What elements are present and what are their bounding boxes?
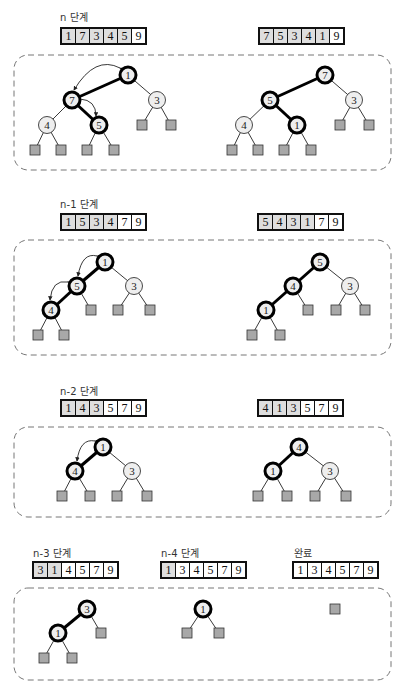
heap-node: 4 bbox=[43, 302, 59, 318]
svg-text:1: 1 bbox=[125, 69, 131, 81]
heap-node: 4 bbox=[39, 117, 56, 134]
svg-text:3: 3 bbox=[131, 280, 137, 292]
svg-text:4: 4 bbox=[48, 304, 54, 316]
heap-node: 3 bbox=[79, 601, 95, 617]
heap-node: 4 bbox=[291, 439, 307, 455]
heap-node: 5 bbox=[69, 278, 85, 294]
heap-node: 3 bbox=[149, 92, 166, 109]
svg-text:5: 5 bbox=[74, 280, 80, 292]
heap-node: 5 bbox=[262, 92, 278, 108]
svg-text:1: 1 bbox=[55, 627, 61, 639]
svg-text:1: 1 bbox=[100, 441, 106, 453]
svg-text:1: 1 bbox=[102, 256, 108, 268]
svg-text:4: 4 bbox=[296, 441, 302, 453]
heap-node: 3 bbox=[124, 463, 141, 480]
empty-leaf-nodes bbox=[30, 120, 374, 663]
svg-text:5: 5 bbox=[267, 94, 273, 106]
svg-text:3: 3 bbox=[84, 603, 90, 615]
heap-node: 1 bbox=[95, 439, 111, 455]
heap-diagram: 173457534115345431143413311 bbox=[0, 0, 396, 692]
stage-box bbox=[14, 55, 391, 170]
svg-text:3: 3 bbox=[129, 465, 135, 477]
svg-text:3: 3 bbox=[347, 280, 353, 292]
svg-text:1: 1 bbox=[294, 119, 300, 131]
svg-text:7: 7 bbox=[322, 69, 328, 81]
heap-node: 4 bbox=[67, 463, 83, 479]
heap-node: 1 bbox=[258, 302, 274, 318]
heap-node: 7 bbox=[317, 67, 333, 83]
heap-node: 1 bbox=[265, 463, 281, 479]
svg-text:4: 4 bbox=[241, 119, 247, 131]
heap-node: 4 bbox=[236, 117, 253, 134]
heap-node: 1 bbox=[289, 117, 305, 133]
heap-node: 1 bbox=[97, 254, 113, 270]
heap-node: 3 bbox=[342, 278, 359, 295]
heap-node: 1 bbox=[50, 625, 66, 641]
svg-text:4: 4 bbox=[44, 119, 50, 131]
svg-text:3: 3 bbox=[351, 94, 357, 106]
heap-node: 1 bbox=[120, 67, 136, 83]
svg-text:1: 1 bbox=[270, 465, 276, 477]
stage-box bbox=[14, 240, 391, 355]
svg-text:3: 3 bbox=[327, 465, 333, 477]
svg-text:4: 4 bbox=[72, 465, 78, 477]
heap-node: 5 bbox=[91, 117, 107, 133]
svg-text:7: 7 bbox=[69, 94, 75, 106]
heap-node: 3 bbox=[322, 463, 339, 480]
svg-text:3: 3 bbox=[154, 94, 160, 106]
heap-node: 3 bbox=[346, 92, 363, 109]
heap-node: 7 bbox=[64, 92, 80, 108]
heap-node: 5 bbox=[312, 254, 328, 270]
svg-text:5: 5 bbox=[96, 119, 102, 131]
stage-boxes bbox=[14, 55, 391, 680]
svg-text:1: 1 bbox=[200, 603, 206, 615]
svg-text:1: 1 bbox=[263, 304, 269, 316]
swap-arrow-icon bbox=[74, 64, 120, 90]
heap-node: 4 bbox=[285, 278, 301, 294]
svg-text:5: 5 bbox=[317, 256, 323, 268]
heap-node: 3 bbox=[126, 278, 143, 295]
svg-text:4: 4 bbox=[290, 280, 296, 292]
heap-node: 1 bbox=[195, 601, 211, 617]
